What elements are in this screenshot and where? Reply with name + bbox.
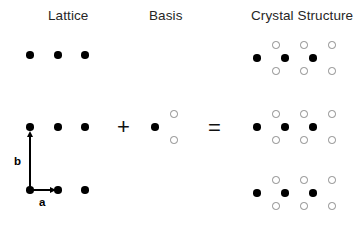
- heading-lattice: Lattice: [48, 9, 88, 23]
- heading-basis: Basis: [149, 9, 183, 23]
- open-atom: [300, 67, 308, 75]
- heading-crystal-structure: Crystal Structure: [251, 9, 353, 23]
- filled-atom: [281, 123, 289, 131]
- open-atom: [272, 67, 280, 75]
- open-atom: [272, 41, 280, 49]
- open-atom: [328, 41, 336, 49]
- filled-atom: [253, 189, 261, 197]
- open-atom: [272, 202, 280, 210]
- filled-atom: [26, 51, 34, 59]
- open-atom: [170, 136, 178, 144]
- filled-atom: [253, 123, 261, 131]
- open-atom: [300, 110, 308, 118]
- filled-atom: [81, 186, 89, 194]
- filled-atom: [81, 123, 89, 131]
- open-atom: [300, 176, 308, 184]
- open-atom: [328, 176, 336, 184]
- open-atom: [328, 202, 336, 210]
- crystal-structure-figure: Lattice Basis Crystal Structure b a + =: [0, 0, 364, 225]
- filled-atom: [253, 54, 261, 62]
- filled-atom: [54, 51, 62, 59]
- filled-atom: [54, 123, 62, 131]
- filled-atom: [281, 54, 289, 62]
- open-atom: [300, 136, 308, 144]
- open-atom: [328, 136, 336, 144]
- filled-atom: [26, 123, 34, 131]
- filled-atom: [81, 51, 89, 59]
- open-atom: [328, 67, 336, 75]
- vector-arrowhead-b: [27, 131, 33, 137]
- filled-atom: [281, 189, 289, 197]
- filled-atom: [309, 54, 317, 62]
- vector-shaft-a: [32, 189, 52, 190]
- vector-shaft-b: [29, 135, 30, 189]
- vector-arrowhead-a: [50, 187, 56, 193]
- vector-label-a: a: [39, 196, 45, 208]
- open-atom: [272, 110, 280, 118]
- vector-label-b: b: [14, 155, 21, 167]
- filled-atom: [309, 189, 317, 197]
- equals-operator: =: [208, 117, 221, 139]
- plus-operator: +: [117, 116, 130, 138]
- open-atom: [272, 136, 280, 144]
- open-atom: [328, 110, 336, 118]
- open-atom: [170, 110, 178, 118]
- open-atom: [300, 41, 308, 49]
- filled-atom: [309, 123, 317, 131]
- filled-atom: [151, 123, 159, 131]
- open-atom: [300, 202, 308, 210]
- open-atom: [272, 176, 280, 184]
